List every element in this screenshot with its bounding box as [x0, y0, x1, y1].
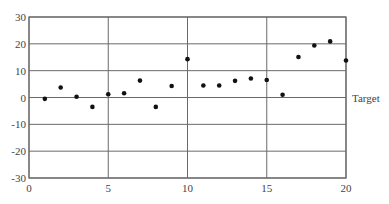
x-tick-label: 5: [106, 182, 112, 194]
data-point: [58, 85, 63, 90]
data-point: [280, 93, 285, 98]
x-axis-ticks: 05101520: [26, 182, 352, 194]
y-axis-ticks: 3020100-10-20-30: [11, 11, 26, 184]
y-tick-label: -20: [11, 145, 26, 157]
y-tick-label: 20: [15, 38, 27, 50]
y-tick-label: -30: [11, 172, 26, 184]
y-tick-label: 0: [21, 92, 27, 104]
data-point: [106, 92, 111, 97]
y-tick-label: 30: [15, 11, 27, 23]
data-point: [185, 57, 190, 62]
data-point: [74, 94, 79, 99]
data-point: [122, 91, 127, 96]
target-annotation: Target: [352, 92, 380, 104]
y-tick-label: -10: [11, 118, 26, 130]
data-point: [201, 83, 206, 88]
data-point: [154, 105, 159, 110]
data-point: [296, 55, 301, 60]
data-point: [264, 78, 269, 83]
data-point: [217, 83, 222, 88]
data-point: [90, 105, 95, 110]
data-point: [249, 76, 254, 81]
data-point: [169, 84, 174, 89]
x-tick-label: 15: [261, 182, 273, 194]
x-tick-label: 0: [26, 182, 32, 194]
data-point: [138, 78, 143, 83]
data-point: [328, 39, 333, 44]
y-tick-label: 10: [15, 65, 27, 77]
data-point: [312, 43, 317, 48]
data-points: [43, 39, 349, 109]
data-point: [344, 58, 349, 63]
x-tick-label: 10: [182, 182, 194, 194]
data-point: [233, 79, 238, 84]
scatter-chart: 3020100-10-20-30 05101520 Target: [0, 0, 389, 204]
data-point: [43, 97, 48, 102]
x-tick-label: 20: [341, 182, 353, 194]
